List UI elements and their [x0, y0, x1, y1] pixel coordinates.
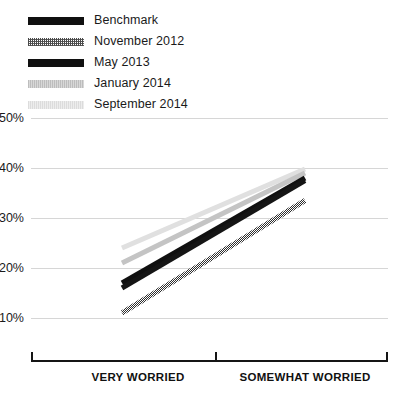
x-axis-labels: VERY WORRIEDSOMEWHAT WORRIED [31, 372, 388, 388]
x-axis-label-very-worried: VERY WORRIED [91, 372, 184, 384]
series-lines [31, 118, 388, 328]
legend-swatch-january-2014 [28, 80, 84, 88]
legend-swatch-november-2012 [28, 38, 84, 46]
y-tick-label-10: 10% [0, 312, 24, 325]
x-axis-tick-right [386, 352, 388, 362]
legend-item-november-2012: November 2012 [28, 31, 358, 52]
legend-label-january-2014: January 2014 [94, 77, 171, 90]
legend-item-may-2013: May 2013 [28, 52, 358, 73]
legend-item-benchmark: Benchmark [28, 10, 358, 31]
x-axis-label-somewhat-worried: SOMEWHAT WORRIED [239, 372, 370, 384]
legend-item-september-2014: September 2014 [28, 94, 358, 115]
x-axis [31, 350, 388, 362]
chart-container: Benchmark November 2012 May 2013 January… [0, 0, 414, 395]
legend-label-may-2013: May 2013 [94, 56, 150, 69]
legend-label-benchmark: Benchmark [94, 14, 158, 27]
legend-swatch-may-2013 [28, 59, 84, 67]
x-axis-tick-middle [215, 352, 217, 362]
legend-item-january-2014: January 2014 [28, 73, 358, 94]
legend-label-september-2014: September 2014 [94, 98, 188, 111]
y-tick-label-30: 30% [0, 212, 24, 225]
x-axis-bar [31, 360, 388, 362]
y-tick-label-20: 20% [0, 262, 24, 275]
y-tick-label-40: 40% [0, 162, 24, 175]
y-tick-label-50: 50% [0, 112, 24, 125]
legend-swatch-september-2014 [28, 101, 84, 109]
legend-swatch-benchmark [28, 17, 84, 25]
legend-label-november-2012: November 2012 [94, 35, 184, 48]
chart-legend: Benchmark November 2012 May 2013 January… [28, 10, 358, 115]
x-axis-tick-left [31, 352, 33, 362]
plot-area: 10%20%30%40%50% [31, 118, 388, 328]
